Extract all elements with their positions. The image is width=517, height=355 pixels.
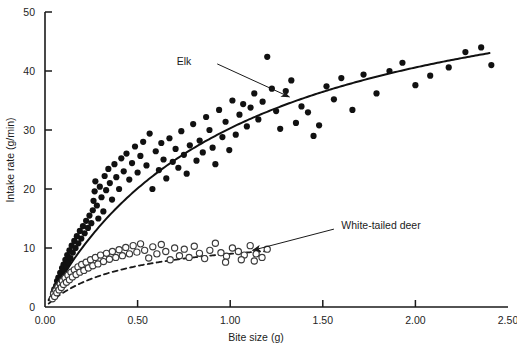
data-point — [331, 96, 337, 102]
data-point — [119, 253, 125, 259]
intake-rate-vs-bite-size-chart: 01020304050 0.000.501.001.502.002.50 Elk… — [0, 0, 517, 355]
data-point — [90, 207, 96, 213]
data-point — [206, 127, 212, 133]
data-point — [137, 241, 143, 247]
data-point — [147, 130, 153, 136]
data-point — [146, 255, 152, 261]
data-point — [223, 253, 229, 259]
data-point — [399, 60, 405, 66]
data-point — [113, 174, 119, 180]
data-point — [184, 171, 190, 177]
data-point — [478, 44, 484, 50]
data-point — [338, 75, 344, 81]
data-point — [160, 156, 166, 162]
data-point — [129, 160, 135, 166]
data-point — [247, 104, 253, 110]
data-point — [273, 108, 279, 114]
y-axis-title: Intake rate (g/min) — [4, 117, 16, 202]
data-point — [123, 151, 129, 157]
data-point — [142, 247, 148, 253]
data-point — [126, 251, 132, 257]
data-point — [113, 254, 119, 260]
data-point — [203, 114, 209, 120]
data-point — [191, 243, 197, 249]
data-point — [277, 126, 283, 132]
data-point — [78, 235, 84, 241]
data-point — [207, 247, 213, 253]
data-point — [156, 167, 162, 173]
data-point — [130, 243, 136, 249]
annotation-label: Elk — [177, 55, 192, 67]
data-point — [95, 215, 101, 221]
data-point — [121, 168, 127, 174]
data-point — [126, 176, 132, 182]
data-point — [118, 155, 124, 161]
data-point — [202, 256, 208, 262]
data-point — [153, 148, 159, 154]
data-point — [412, 82, 418, 88]
data-point — [116, 247, 122, 253]
data-point — [116, 186, 122, 192]
data-point — [102, 173, 108, 179]
data-point — [103, 250, 109, 256]
data-point — [135, 169, 141, 175]
data-point — [175, 165, 181, 171]
data-point — [373, 90, 379, 96]
data-point — [212, 161, 218, 167]
data-point — [298, 103, 304, 109]
data-point — [260, 99, 266, 105]
data-point — [172, 146, 178, 152]
data-point — [123, 244, 129, 250]
y-axis-tick-label: 0 — [29, 301, 35, 313]
data-point — [137, 153, 143, 159]
data-point — [316, 122, 322, 128]
data-point — [323, 83, 329, 89]
data-point — [222, 119, 228, 125]
data-point — [97, 252, 103, 258]
data-point — [92, 178, 98, 184]
data-point — [181, 152, 187, 158]
y-axis-tick-label: 40 — [23, 65, 35, 77]
data-point — [259, 254, 265, 260]
data-point — [264, 54, 270, 60]
data-point — [236, 112, 242, 118]
data-point — [150, 244, 156, 250]
data-point — [97, 184, 103, 190]
data-point — [170, 159, 176, 165]
data-point — [94, 202, 100, 208]
data-point — [288, 77, 294, 83]
x-axis-tick-label: 1.50 — [313, 314, 334, 326]
figure-container: 01020304050 0.000.501.001.502.002.50 Elk… — [0, 0, 517, 355]
data-point — [216, 107, 222, 113]
data-point — [283, 88, 289, 94]
data-point — [462, 49, 468, 55]
data-point — [154, 251, 160, 257]
data-point — [226, 147, 232, 153]
y-axis-tick-label: 50 — [23, 6, 35, 18]
data-point — [158, 140, 164, 146]
y-axis-tick-label: 10 — [23, 242, 35, 254]
data-point — [196, 250, 202, 256]
data-point — [105, 166, 111, 172]
data-point — [186, 254, 192, 260]
data-point — [253, 251, 259, 257]
data-point — [310, 133, 316, 139]
data-point — [247, 243, 253, 249]
y-axis-tick-label: 30 — [23, 124, 35, 136]
data-point — [251, 90, 257, 96]
data-point — [134, 249, 140, 255]
data-point — [197, 138, 203, 144]
data-point — [187, 142, 193, 148]
data-point — [235, 248, 241, 254]
data-point — [181, 246, 187, 252]
data-point — [149, 186, 155, 192]
data-point — [67, 255, 73, 261]
data-point — [109, 248, 115, 254]
x-axis-tick-label: 2.00 — [405, 314, 426, 326]
data-point — [109, 197, 115, 203]
data-point — [219, 134, 225, 140]
data-point — [233, 132, 239, 138]
x-axis-tick-label: 1.00 — [220, 314, 241, 326]
data-point — [176, 253, 182, 259]
data-point — [107, 180, 113, 186]
